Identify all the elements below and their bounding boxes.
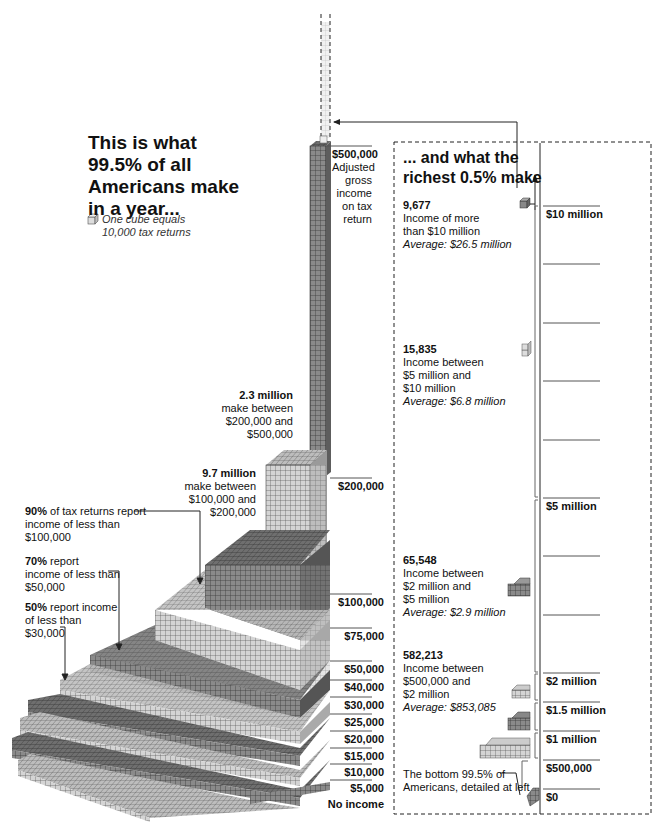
legend-line: One cube equals [102,213,191,226]
axis-label-0: $0 [546,791,558,804]
left-title-line: This is what [88,132,239,154]
annotation-9-7-million: 9.7 million make between $100,000 and $2… [160,467,256,519]
group-text: Income between [403,662,496,675]
group-text: $5 million and [403,369,506,382]
group-text: Income between [403,356,506,369]
bottom-note-line: Americans, detailed at left [403,781,530,794]
annotation-text: of less than [25,614,117,627]
axis-label-25k: $25,000 [320,716,384,729]
annotation-text: $200,000 and [200,415,293,428]
cluster-5m [522,341,531,356]
right-title: ... and what the richest 0.5% make [403,148,542,188]
tower-top-label: $500,000 Adjusted gross income on tax re… [332,148,372,226]
group-text: $2 million and [403,580,506,593]
annotation-text: $100,000 and [160,493,256,506]
annotation-text: $30,000 [25,627,117,640]
annotation-text: $200,000 [160,506,256,519]
group-average: Average: $26.5 million [403,238,512,251]
right-title-line: richest 0.5% make [403,168,542,188]
group-count: 65,548 [403,554,506,567]
tower-top-text: gross [332,174,372,187]
group-count: 15,835 [403,343,506,356]
annotation-90-percent: 90% of tax returns report income of less… [25,505,146,544]
group-count: 582,213 [403,649,496,662]
ghost-column [321,14,330,138]
axis-label-5k: $5,000 [320,782,384,795]
axis-label-75k: $75,000 [320,630,384,643]
bottom-note-line: The bottom 99.5% of [403,768,530,781]
group-average: Average: $853,085 [403,701,496,714]
annotation-text: income of less than [25,518,146,531]
group-count: 9,677 [403,199,512,212]
tower-top-text: on tax [332,200,372,213]
annotation-bold: 2.3 million [200,389,293,402]
axis-label-100k: $100,000 [320,596,384,609]
annotation-bold: 9.7 million [160,467,256,480]
axis-label-1m: $1 million [546,733,597,746]
left-title-line: Americans make [88,176,239,198]
cluster-1m [508,712,530,730]
annotation-bold: 70% [25,555,47,567]
annotation-text: report income [47,601,117,613]
annotation-text: of tax returns report [47,505,146,517]
group-text: than $10 million [403,225,512,238]
left-title-line: 99.5% of all [88,154,239,176]
group-text: Income between [403,567,506,580]
cluster-500k [480,738,530,758]
axis-label-no-income: No income [320,798,384,811]
legend-line: 10,000 tax returns [102,226,191,239]
cluster-1.5m [512,685,530,698]
group-over-10m: 9,677 Income of more than $10 million Av… [403,199,512,251]
axis-label-5m: $5 million [546,500,597,513]
group-average: Average: $2.9 million [403,606,506,619]
annotation-text: make between [160,480,256,493]
annotation-bold: 50% [25,601,47,613]
axis-label-10m: $10 million [546,208,603,221]
group-text: $2 million [403,688,496,701]
group-text: Income of more [403,212,512,225]
group-text: $10 million [403,382,506,395]
group-500k-2m: 582,213 Income between $500,000 and $2 m… [403,649,496,714]
group-5m-10m: 15,835 Income between $5 million and $10… [403,343,506,408]
axis-label-10k: $10,000 [320,766,384,779]
group-average: Average: $6.8 million [403,395,506,408]
tower-top-text: income [332,187,372,200]
axis-label-2m: $2 million [546,675,597,688]
tower-top-value: $500,000 [332,148,372,161]
annotation-50-percent: 50% report income of less than $30,000 [25,601,117,640]
bottom-note: The bottom 99.5% of Americans, detailed … [403,768,530,794]
annotation-text: make between [200,402,293,415]
annotation-70-percent: 70% report income of less than $50,000 [25,555,120,594]
axis-label-40k: $40,000 [320,681,384,694]
axis-label-200k: $200,000 [320,480,384,493]
tower-top-text: return [332,213,372,226]
annotation-text: $50,000 [25,581,120,594]
annotation-2-3-million: 2.3 million make between $200,000 and $5… [200,389,293,441]
annotation-text: income of less than [25,568,120,581]
left-title: This is what 99.5% of all Americans make… [88,132,239,220]
axis-label-1-5m: $1.5 million [546,704,606,717]
legend: One cube equals 10,000 tax returns [102,213,191,239]
annotation-text: $100,000 [25,531,146,544]
axis-label-20k: $20,000 [320,733,384,746]
axis-label-30k: $30,000 [320,699,384,712]
annotation-bold: 90% [25,505,47,517]
axis-label-50k: $50,000 [320,663,384,676]
right-title-line: ... and what the [403,148,542,168]
tower-top-text: Adjusted [332,161,372,174]
group-text: $500,000 and [403,675,496,688]
group-text: $5 million [403,593,506,606]
cluster-10m [520,198,535,208]
annotation-text: $500,000 [200,428,293,441]
axis-label-500k: $500,000 [546,762,592,775]
axis-label-15k: $15,000 [320,750,384,763]
annotation-text: report [47,555,79,567]
cluster-2m [508,578,530,596]
group-2m-5m: 65,548 Income between $2 million and $5 … [403,554,506,619]
